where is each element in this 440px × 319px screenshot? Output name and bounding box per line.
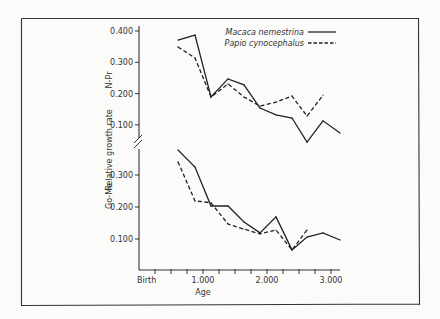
data-point bbox=[306, 236, 307, 237]
panel-label-n-pr: N-Pr bbox=[105, 71, 114, 89]
data-point bbox=[291, 117, 292, 118]
x-tick-label: 2.000 bbox=[256, 276, 279, 285]
data-point bbox=[306, 229, 307, 230]
n-pr-macaca-line bbox=[178, 35, 340, 142]
legend: Macaca nemestrinaPapio cynocephalus bbox=[225, 28, 336, 48]
data-point bbox=[194, 34, 195, 35]
data-point bbox=[259, 106, 260, 107]
data-point bbox=[194, 166, 195, 167]
figure-frame bbox=[22, 19, 162, 155]
n-pr-papio-line bbox=[178, 47, 323, 116]
legend-label: Macaca nemestrina bbox=[226, 28, 305, 37]
y-tick-label: 0.100 bbox=[110, 235, 133, 244]
data-point bbox=[194, 57, 195, 58]
data-point bbox=[275, 216, 276, 217]
y-tick-label: 0.400 bbox=[110, 27, 133, 36]
data-point bbox=[243, 228, 244, 229]
data-point bbox=[275, 229, 276, 230]
x-tick-label: 1.000 bbox=[192, 276, 215, 285]
data-point bbox=[210, 96, 211, 97]
x-axis-label: Age bbox=[195, 288, 211, 297]
data-point bbox=[339, 132, 340, 133]
y-tick-label: 0.300 bbox=[110, 58, 133, 67]
x-tick-label: 3.000 bbox=[320, 276, 343, 285]
data-point bbox=[339, 239, 340, 240]
y-axis-label: Relative growth rate bbox=[105, 109, 114, 191]
data-point bbox=[322, 232, 323, 233]
panel-label-go-me: Go-Me bbox=[105, 183, 114, 209]
figure-border bbox=[21, 19, 419, 155]
data-point bbox=[306, 116, 307, 117]
x-tick-label: Birth bbox=[137, 276, 156, 285]
axes: 0.1000.2000.3000.4000.1000.2000.300Birth… bbox=[105, 26, 342, 297]
data-point bbox=[275, 101, 276, 102]
data-point bbox=[177, 39, 178, 40]
axis-break-marker bbox=[134, 135, 142, 148]
data-point bbox=[194, 200, 195, 201]
figure-border-spacer bbox=[22, 19, 419, 155]
go-me-macaca-line bbox=[178, 150, 340, 250]
y-tick-label: 0.200 bbox=[110, 90, 133, 99]
data-point bbox=[243, 221, 244, 222]
data-point bbox=[243, 84, 244, 85]
data-point bbox=[227, 78, 228, 79]
figure-border-group bbox=[21, 19, 420, 306]
legend-label: Papio cynocephalus bbox=[225, 39, 304, 48]
data-point bbox=[291, 96, 292, 97]
growth-rate-chart: 0.1000.2000.3000.4000.1000.2000.300Birth… bbox=[0, 0, 440, 319]
data-point bbox=[177, 46, 178, 47]
data-point bbox=[322, 95, 323, 96]
data-point bbox=[322, 120, 323, 121]
data-point bbox=[275, 114, 276, 115]
data-point bbox=[227, 205, 228, 206]
data-point bbox=[210, 202, 211, 203]
go-me-papio-line bbox=[178, 162, 307, 250]
data-point bbox=[259, 107, 260, 108]
series bbox=[177, 34, 340, 250]
figure-border-lines bbox=[21, 19, 420, 306]
data-point bbox=[177, 161, 178, 162]
data-point bbox=[177, 149, 178, 150]
data-point bbox=[227, 223, 228, 224]
data-point bbox=[243, 96, 244, 97]
data-point bbox=[306, 142, 307, 143]
data-point bbox=[227, 83, 228, 84]
data-point bbox=[291, 249, 292, 250]
data-point bbox=[259, 233, 260, 234]
figure-border-top bbox=[22, 19, 419, 155]
data-point bbox=[210, 205, 211, 206]
